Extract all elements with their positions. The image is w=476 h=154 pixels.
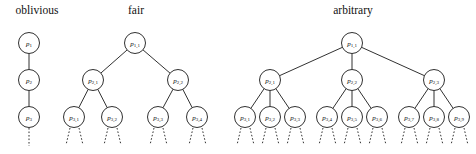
tree-node: p3,1 xyxy=(235,107,256,128)
tree-edge-dashed-stub xyxy=(237,128,241,145)
tree-edge-dashed-stub xyxy=(414,128,418,145)
tree-edge-dashed-stub xyxy=(202,128,206,145)
tree-edge-dashed-stub xyxy=(319,128,323,145)
tree-node: p1,1 xyxy=(342,33,363,54)
tree-edge xyxy=(98,89,107,107)
tree-edge-dashed-stub xyxy=(357,128,361,145)
tree-edge-dashed-stub xyxy=(150,128,154,145)
tree-node: p2,3 xyxy=(424,70,445,91)
tree-node: p2,1 xyxy=(260,70,281,91)
tree-node: p3,6 xyxy=(367,107,388,128)
stub-group-arbitrary xyxy=(237,128,468,145)
tree-edge-dashed-stub xyxy=(300,128,304,145)
tree-edge-dashed-stub xyxy=(79,128,83,145)
tree-node: p3,1 xyxy=(64,107,85,128)
tree-edge-dashed-stub xyxy=(439,128,443,145)
panel-title-oblivious: oblivious xyxy=(16,4,59,16)
tree-panel-fair: fairp1,1p2,1p2,2p3,1p3,2p3,3p3,4 xyxy=(64,4,208,145)
tree-edge-dashed-stub xyxy=(344,128,348,145)
figure-root: obliviousp1p2p3fairp1,1p2,1p2,2p3,1p3,2p… xyxy=(16,4,470,146)
tree-edge xyxy=(251,89,264,109)
tree-edge xyxy=(440,89,453,109)
tree-node: p3,2 xyxy=(102,107,123,128)
tree-node: p1,1 xyxy=(125,33,146,54)
tree-node: p2,1 xyxy=(83,70,104,91)
tree-edge-dashed-stub xyxy=(66,128,70,145)
tree-node: p3,8 xyxy=(424,107,445,128)
tree-edge-dashed-stub xyxy=(250,128,254,145)
tree-edge xyxy=(101,50,127,73)
tree-edge-dashed-stub xyxy=(382,128,386,145)
tree-edge xyxy=(276,89,289,109)
tree-node: p2 xyxy=(19,70,40,91)
tree-edge-dashed-stub xyxy=(401,128,405,145)
tree-edge-dashed-stub xyxy=(117,128,121,145)
tree-edge xyxy=(143,50,170,73)
stub-group-fair xyxy=(66,128,206,145)
process-tree-figure: obliviousp1p2p3fairp1,1p2,1p2,2p3,1p3,2p… xyxy=(0,0,476,154)
tree-panel-oblivious: obliviousp1p2p3 xyxy=(16,4,59,146)
tree-node: p3,2 xyxy=(260,107,281,128)
tree-node: p3 xyxy=(19,107,40,128)
tree-edge-dashed-stub xyxy=(464,128,468,145)
tree-node: p2,2 xyxy=(168,70,189,91)
tree-edge xyxy=(79,89,88,107)
tree-edge-dashed-stub xyxy=(275,128,279,145)
tree-panel-arbitrary: arbitraryp1,1p2,1p2,2p2,3p3,1p3,2p3,3p3,… xyxy=(235,4,470,145)
tree-edge xyxy=(183,89,192,107)
tree-edge xyxy=(333,89,346,109)
tree-edge-dashed-stub xyxy=(426,128,430,145)
tree-edge-dashed-stub xyxy=(104,128,108,145)
tree-edge-dashed-stub xyxy=(163,128,167,145)
tree-edge-dashed-stub xyxy=(451,128,455,145)
tree-node: p3,9 xyxy=(449,107,470,128)
tree-edge-dashed-stub xyxy=(332,128,336,145)
tree-edge xyxy=(358,89,371,109)
tree-node: p1 xyxy=(19,33,40,54)
tree-node: p3,4 xyxy=(317,107,338,128)
tree-node: p3,5 xyxy=(342,107,363,128)
tree-edge-dashed-stub xyxy=(262,128,266,145)
panel-title-fair: fair xyxy=(128,4,144,16)
tree-node: p3,3 xyxy=(285,107,306,128)
tree-node: p3,7 xyxy=(399,107,420,128)
tree-edge-dashed-stub xyxy=(189,128,193,145)
tree-edge-dashed-stub xyxy=(287,128,291,145)
tree-edge-dashed-stub xyxy=(369,128,373,145)
tree-node: p2,2 xyxy=(342,70,363,91)
tree-node: p3,3 xyxy=(148,107,169,128)
panel-title-arbitrary: arbitrary xyxy=(333,4,373,17)
tree-node: p3,4 xyxy=(187,107,208,128)
tree-edge xyxy=(280,47,343,75)
tree-edge xyxy=(163,89,173,108)
tree-edge xyxy=(362,47,425,75)
tree-edge xyxy=(415,89,428,109)
